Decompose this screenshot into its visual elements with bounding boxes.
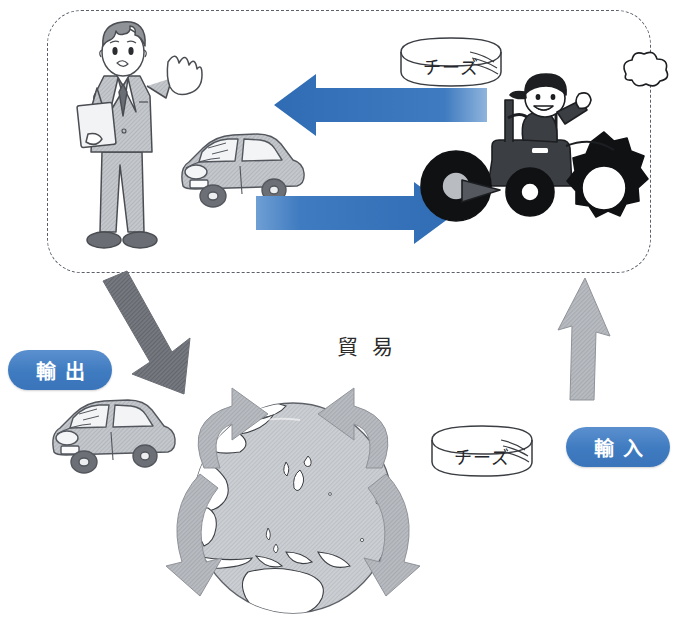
trade-diagram: チーズ チーズ 貿易 輸出 輸入 [0, 0, 684, 632]
trade-title-label: 貿易 [300, 330, 430, 360]
cheese-label-bottom: チーズ [432, 443, 532, 469]
diagram-artwork [0, 0, 684, 632]
businessman-figure [77, 22, 202, 248]
car-illustration [53, 400, 175, 473]
import-badge: 輸入 [566, 427, 670, 467]
export-down-arrow [103, 271, 190, 394]
export-badge: 輸出 [8, 350, 112, 390]
cheese-label-top: チーズ [401, 53, 501, 79]
import-up-arrow [558, 278, 610, 400]
